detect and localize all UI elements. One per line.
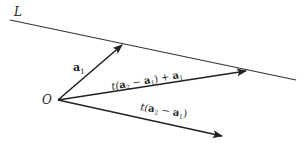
vector-sum-label: t(a2 − a1) + a1 (110, 69, 183, 93)
line-L (10, 20, 296, 80)
vector-diff-label: t(a2 − a1) (140, 101, 189, 120)
line-label: L (13, 5, 22, 19)
origin-label: O (42, 93, 52, 107)
vector-diagram: L O a1 t(a2 − a1) + a1 t(a2 − a1) (0, 0, 305, 150)
vector-a1-label: a1 (73, 61, 85, 76)
